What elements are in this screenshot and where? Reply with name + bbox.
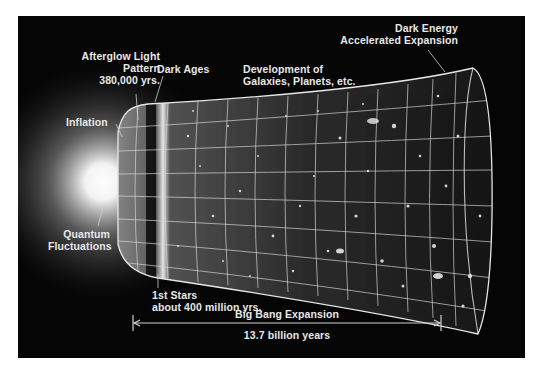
first-stars-label-line1: 1st Stars [152,289,262,301]
development-label-line2: Galaxies, Planets, etc. [243,75,356,87]
afterglow-label-line2: Pattern [60,62,160,74]
big-bang-expansion-label: Big Bang Expansion [134,308,440,320]
quantum-fluctuations-label: Quantum Fluctuations [48,228,110,252]
dark-energy-label-line1: Dark Energy [338,22,458,34]
duration-label: 13.7 billion years [134,329,440,341]
dark-energy-label-line2: Accelerated Expansion [338,34,458,46]
development-label: Development of Galaxies, Planets, etc. [243,63,356,87]
afterglow-label-line1: Afterglow Light [60,50,160,62]
quantum-label-line1: Quantum [48,228,110,240]
inflation-label: Inflation [66,116,108,128]
afterglow-label: Afterglow Light Pattern 380,000 yrs. [60,50,160,86]
dark-ages-label: Dark Ages [157,63,209,75]
dark-energy-label: Dark Energy Accelerated Expansion [338,22,458,46]
afterglow-label-line3: 380,000 yrs. [60,74,160,86]
dark-energy-leader-line [428,50,445,72]
development-label-line1: Development of [243,63,356,75]
universe-timeline-diagram: Afterglow Light Pattern 380,000 yrs. Dar… [18,16,525,358]
quantum-label-line2: Fluctuations [48,240,110,252]
